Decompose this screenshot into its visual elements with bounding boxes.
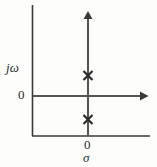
pole-zero-figure: jω 0 0 σ xyxy=(0,0,157,167)
real-axis-label: σ xyxy=(83,151,89,164)
origin-label-vertical-axis: 0 xyxy=(18,88,25,101)
imaginary-axis-arrowhead-icon xyxy=(84,11,93,19)
plot-canvas xyxy=(0,0,157,167)
real-axis-arrowhead-icon xyxy=(140,92,149,101)
imaginary-axis-label: jω xyxy=(6,61,19,74)
